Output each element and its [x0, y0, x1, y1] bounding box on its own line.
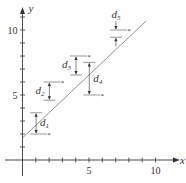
arrowhead-icon [35, 130, 38, 134]
axis-labels: xy [28, 2, 186, 166]
y-axis-label: y [28, 2, 34, 14]
deviation-label: d4 [93, 72, 103, 86]
arrowhead-icon [48, 83, 51, 87]
data-point-icon: * [47, 131, 51, 139]
y-tick-label: 5 [13, 90, 18, 101]
x-tick-label: 10 [151, 165, 161, 176]
regression-diagram: 510510 *d1*d2*d3*d4*d5 xy [0, 0, 185, 183]
arrowhead-icon [74, 57, 77, 61]
deviation-label: d2 [35, 84, 45, 98]
arrowhead-icon [88, 63, 91, 67]
deviation-label: d5 [111, 8, 121, 22]
arrowhead-icon [88, 91, 91, 95]
data-point-icon: * [127, 27, 131, 35]
deviation-label: d3 [62, 58, 72, 72]
deviation-markers: *d1*d2*d3*d4*d5 [30, 8, 131, 139]
deviation-group: *d3 [62, 53, 91, 75]
x-axis-label: x [179, 154, 185, 166]
deviation-label: d1 [40, 116, 49, 130]
arrowhead-icon [35, 113, 38, 117]
axes [5, 7, 180, 176]
x-tick-label: 5 [87, 165, 92, 176]
deviation-group: *d1 [30, 113, 51, 139]
y-tick-label: 10 [8, 25, 18, 36]
data-point-icon: * [87, 53, 91, 61]
arrowhead-icon [114, 26, 117, 30]
arrowhead-icon [48, 96, 51, 100]
deviation-group: *d2 [35, 79, 64, 100]
y-axis-arrow-icon [20, 7, 25, 14]
deviation-group: *d4 [83, 62, 104, 100]
x-axis-arrow-icon [173, 158, 180, 163]
data-point-icon: * [101, 92, 105, 100]
tick-labels: 510510 [8, 25, 161, 177]
deviation-group: *d5 [110, 8, 131, 46]
arrowhead-icon [74, 71, 77, 75]
data-point-icon: * [61, 79, 65, 87]
arrowhead-icon [114, 38, 117, 42]
